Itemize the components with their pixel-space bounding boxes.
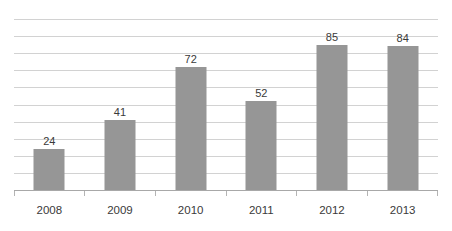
- x-tick-label-2011: 2011: [249, 204, 274, 216]
- bar-2009[interactable]: [104, 120, 135, 190]
- axis-tick: [226, 191, 227, 196]
- x-tick-slot: 2013: [367, 200, 438, 218]
- bar-value-label: 84: [397, 32, 409, 45]
- x-tick-slot: 2009: [85, 200, 156, 218]
- bar-2011[interactable]: [246, 101, 277, 190]
- axis-tick: [296, 191, 297, 196]
- x-tick-label-2009: 2009: [107, 204, 133, 216]
- bar-value-label: 41: [114, 106, 126, 119]
- bar-2012[interactable]: [316, 45, 347, 190]
- bar-slot: 41: [85, 19, 156, 190]
- bar-value-label: 85: [326, 31, 338, 44]
- axis-tick: [14, 191, 15, 196]
- x-tick-slot: 2010: [155, 200, 226, 218]
- x-tick-label-2010: 2010: [178, 204, 204, 216]
- x-tick-slot: 2008: [14, 200, 85, 218]
- axis-tick: [84, 191, 85, 196]
- bar-value-label: 24: [43, 135, 55, 148]
- x-tick-slot: 2012: [297, 200, 368, 218]
- axis-tick: [437, 191, 438, 196]
- x-tick-slot: 2011: [226, 200, 297, 218]
- axis-tick: [367, 191, 368, 196]
- bar-slot: 72: [155, 19, 226, 190]
- bar-slot: 24: [14, 19, 85, 190]
- bar-value-label: 72: [185, 53, 197, 66]
- x-axis-labels: 2008 2009 2010 2011 2012 2013: [14, 191, 438, 231]
- bar-slot: 52: [226, 19, 297, 190]
- bar-chart: 24 41 72 52 85 84: [0, 0, 452, 231]
- x-tick-label-2008: 2008: [37, 204, 63, 216]
- bar-2008[interactable]: [34, 149, 65, 190]
- axis-tick: [155, 191, 156, 196]
- bar-2013[interactable]: [387, 46, 418, 190]
- bar-slot: 84: [367, 19, 438, 190]
- bar-2010[interactable]: [175, 67, 206, 190]
- bar-value-label: 52: [255, 87, 267, 100]
- bars-layer: 24 41 72 52 85 84: [14, 19, 438, 190]
- bar-slot: 85: [297, 19, 368, 190]
- x-tick-label-2012: 2012: [319, 204, 345, 216]
- x-tick-label-2013: 2013: [390, 204, 416, 216]
